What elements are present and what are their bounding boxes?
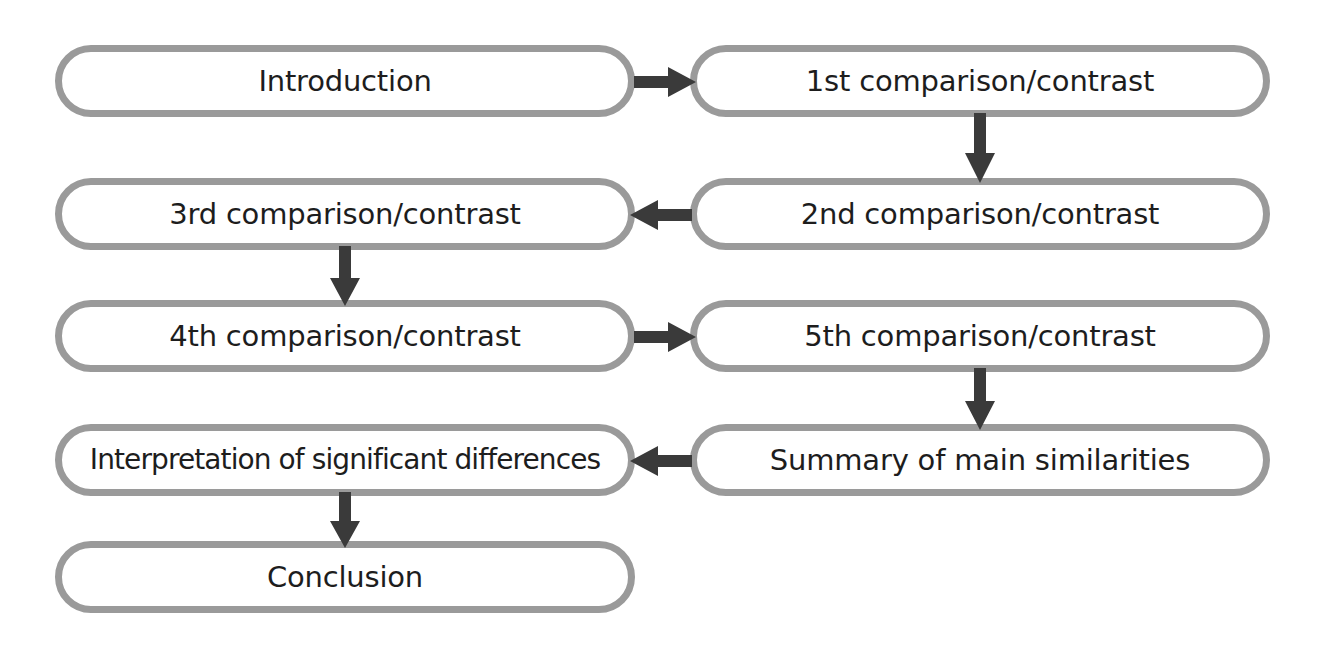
- node-label: 1st comparison/contrast: [798, 67, 1162, 96]
- node-comparison-2[interactable]: 2nd comparison/contrast: [690, 178, 1270, 250]
- node-label: Introduction: [250, 67, 439, 96]
- node-label: 2nd comparison/contrast: [793, 200, 1168, 229]
- node-comparison-4[interactable]: 4th comparison/contrast: [55, 300, 635, 372]
- node-comparison-1[interactable]: 1st comparison/contrast: [690, 45, 1270, 117]
- node-introduction[interactable]: Introduction: [55, 45, 635, 117]
- flowchart-canvas: Introduction 1st comparison/contrast 3rd…: [0, 0, 1325, 655]
- arrow-right-icon: [634, 65, 696, 99]
- arrow-down-icon: [328, 246, 362, 306]
- node-label: Summary of main similarities: [762, 446, 1198, 475]
- node-label: 5th comparison/contrast: [796, 322, 1164, 351]
- arrow-down-icon: [963, 368, 997, 430]
- node-comparison-3[interactable]: 3rd comparison/contrast: [55, 178, 635, 250]
- arrow-down-icon: [963, 113, 997, 183]
- node-interpretation[interactable]: Interpretation of significant difference…: [55, 424, 635, 496]
- node-conclusion[interactable]: Conclusion: [55, 541, 635, 613]
- node-label: Interpretation of significant difference…: [82, 446, 608, 474]
- node-summary[interactable]: Summary of main similarities: [690, 424, 1270, 496]
- arrow-down-icon: [328, 492, 362, 548]
- arrow-left-icon: [630, 444, 692, 478]
- arrow-right-icon: [634, 320, 696, 354]
- arrow-left-icon: [630, 198, 692, 232]
- node-label: 3rd comparison/contrast: [161, 200, 529, 229]
- node-comparison-5[interactable]: 5th comparison/contrast: [690, 300, 1270, 372]
- node-label: 4th comparison/contrast: [161, 322, 529, 351]
- node-label: Conclusion: [259, 563, 431, 592]
